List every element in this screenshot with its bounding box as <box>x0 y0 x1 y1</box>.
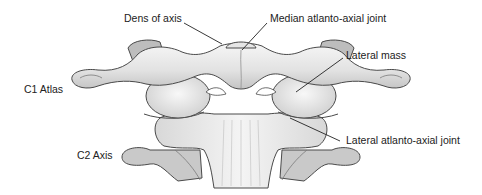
atlas-axis-illustration <box>0 0 482 195</box>
label-c1-atlas: C1 Atlas <box>24 83 63 95</box>
label-median-atlanto-axial-joint: Median atlanto-axial joint <box>270 12 386 24</box>
label-lateral-mass: Lateral mass <box>346 49 406 61</box>
median-atlanto-axial-joint <box>241 50 242 88</box>
label-dens-of-axis: Dens of axis <box>124 12 182 24</box>
label-lateral-atlanto-axial-joint: Lateral atlanto-axial joint <box>346 134 460 146</box>
dens-of-axis <box>226 42 256 48</box>
label-c2-axis: C2 Axis <box>77 149 113 161</box>
leader-dens <box>184 23 222 44</box>
c2-axis <box>122 112 360 188</box>
